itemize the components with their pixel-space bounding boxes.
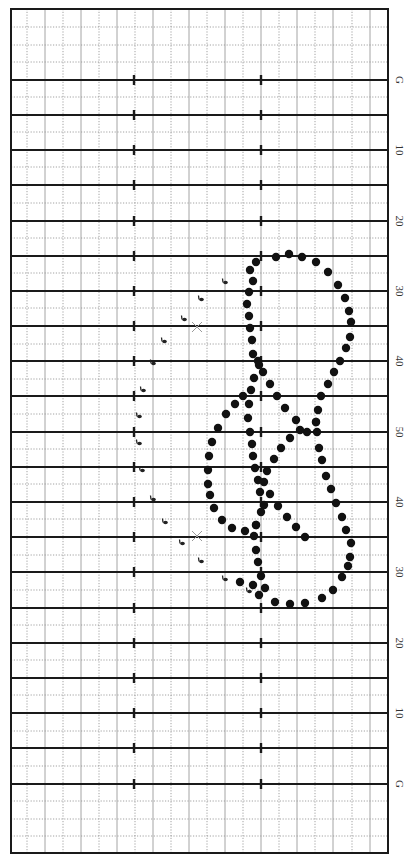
marker-head (141, 389, 146, 393)
marker-tail (199, 558, 200, 562)
yard-label: 20 (392, 628, 408, 658)
formation-dot (249, 350, 257, 358)
marker-tail (137, 440, 138, 444)
formation-dot (243, 300, 251, 308)
formation-dot (236, 578, 244, 586)
formation-dot (204, 466, 212, 474)
formation-dot (205, 452, 213, 460)
formation-dot (248, 440, 256, 448)
marker-tail (199, 296, 200, 300)
yard-label: 20 (392, 206, 408, 236)
marker-tail (163, 519, 164, 523)
formation-dot (324, 380, 332, 388)
formation-dot (255, 591, 263, 599)
marker-head (137, 415, 142, 419)
marker-head (199, 298, 204, 302)
formation-dot (347, 318, 355, 326)
formation-dot (301, 533, 309, 541)
marker-tail (247, 588, 248, 592)
yard-label: G (392, 769, 408, 799)
formation-dot (273, 392, 281, 400)
formation-dots (204, 250, 355, 608)
formation-dot (312, 258, 320, 266)
formation-dot (241, 527, 249, 535)
formation-dot (250, 374, 258, 382)
formation-dot (246, 266, 254, 274)
formation-dot (254, 558, 262, 566)
marker-head (151, 498, 156, 502)
marker-head (151, 362, 156, 366)
formation-dot (329, 586, 337, 594)
performer-marker-icon (141, 387, 146, 393)
formation-dot (312, 418, 320, 426)
formation-dot (251, 464, 259, 472)
formation-dot (249, 277, 257, 285)
marker-head (163, 521, 168, 525)
marker-tail (162, 338, 163, 342)
formation-dot (252, 521, 260, 529)
formation-dot (347, 539, 355, 547)
formation-dot (330, 368, 338, 376)
formation-dot (266, 490, 274, 498)
formation-dot (239, 392, 247, 400)
formation-dot (285, 250, 293, 258)
performer-marker-icon (162, 338, 167, 344)
marker-tail (151, 496, 152, 500)
formation-dot (245, 400, 253, 408)
performer-marker-icon (199, 296, 204, 302)
formation-dot (324, 268, 332, 276)
formation-dot (270, 455, 278, 463)
performer-marker-icon (137, 440, 142, 446)
performer-markers (137, 267, 254, 594)
marker-tail (141, 387, 142, 391)
formation-dot (231, 400, 239, 408)
formation-dot (244, 414, 252, 422)
formation-dot (228, 524, 236, 532)
marker-head (223, 578, 228, 582)
formation-dot (248, 336, 256, 344)
yard-label: 40 (392, 346, 408, 376)
formation-dot (281, 404, 289, 412)
formation-dot (322, 472, 330, 480)
formation-dot (252, 546, 260, 554)
yard-label: 10 (392, 135, 408, 165)
formation-dot (210, 504, 218, 512)
formation-dot (274, 502, 282, 510)
marker-tail (182, 316, 183, 320)
formation-dot (261, 584, 269, 592)
formation-dot (245, 312, 253, 320)
marker-tail (151, 360, 152, 364)
yard-label: 40 (392, 487, 408, 517)
formation-dot (263, 467, 271, 475)
formation-dot (346, 553, 354, 561)
formation-dot (214, 424, 222, 432)
formation-dot (317, 392, 325, 400)
formation-dot (247, 386, 255, 394)
marker-head (223, 281, 228, 285)
formation-dot (206, 491, 214, 499)
formation-dot (266, 380, 274, 388)
marker-head (162, 340, 167, 344)
formation-dot (292, 416, 300, 424)
formation-dot (218, 516, 226, 524)
formation-dot (346, 333, 354, 341)
formation-dot (342, 526, 350, 534)
marker-tail (137, 413, 138, 417)
formation-dot (296, 426, 304, 434)
marker-head (247, 590, 252, 594)
formation-dot (246, 428, 254, 436)
formation-dot (257, 572, 265, 580)
formation-dot (245, 288, 253, 296)
formation-dot (327, 485, 335, 493)
formation-dot (334, 281, 342, 289)
formation-dot (314, 406, 322, 414)
yard-label: 50 (392, 417, 408, 447)
yard-label: 30 (392, 276, 408, 306)
yard-lines (11, 80, 388, 784)
formation-dot (271, 598, 279, 606)
formation-dot (249, 452, 257, 460)
formation-dot (338, 573, 346, 581)
yard-label: 30 (392, 557, 408, 587)
performer-marker-icon (199, 558, 204, 564)
formation-dot (255, 361, 263, 369)
